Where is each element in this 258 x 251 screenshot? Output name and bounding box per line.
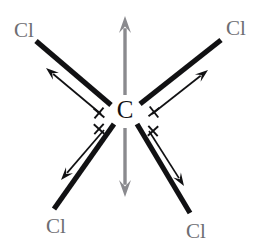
molecule-svg-canvas: Cl Cl Cl Cl C (0, 0, 258, 251)
cross-mark-top-right (144, 102, 164, 122)
atom-label-chlorine-bottom-right: Cl (186, 219, 206, 243)
atom-label-chlorine-top-left: Cl (14, 18, 34, 42)
bond-bottom-right (137, 124, 190, 213)
dipole-top-left-shaft (53, 74, 101, 114)
dipole-arrow-top-right (152, 70, 208, 114)
bond-bottom-left (54, 124, 114, 209)
net-arrow-up (119, 16, 131, 95)
atom-label-chlorine-top-right: Cl (226, 16, 246, 40)
bond-top-left (36, 41, 111, 105)
dipole-top-right-head (195, 70, 208, 82)
atom-label-chlorine-bottom-left: Cl (46, 214, 66, 238)
bond-dipole-arrow-group (46, 68, 208, 186)
molecule-diagram: Cl Cl Cl Cl C (0, 0, 258, 251)
net-arrow-down (119, 128, 131, 197)
bond-top-right (140, 40, 221, 104)
atom-label-carbon-center: C (117, 96, 134, 123)
